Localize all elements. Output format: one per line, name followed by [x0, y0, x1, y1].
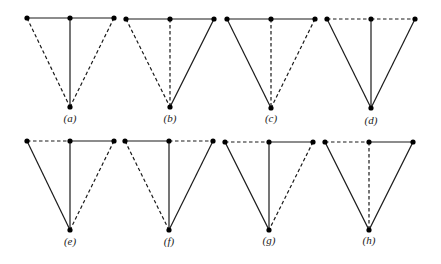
edge-tr-b-dashed [269, 142, 313, 230]
vertex-tm [266, 139, 271, 144]
vertex-tm [268, 16, 273, 21]
edge-tr-b-solid [170, 19, 214, 107]
edge-tr-b-dashed [70, 141, 114, 230]
panel-label: (c) [265, 112, 278, 125]
panel-label: (b) [164, 112, 177, 125]
vertex-tr [111, 138, 116, 143]
vertex-tl [122, 138, 127, 143]
edge-tl-b-solid [325, 142, 369, 230]
vertex-tm [166, 138, 171, 143]
panel-label: (g) [263, 234, 276, 247]
vertex-tm [167, 16, 172, 21]
graph-panel: (c) [224, 16, 317, 125]
vertex-tl [224, 16, 229, 21]
edge-tl-b-dashed [27, 18, 70, 107]
panel-label: (a) [64, 112, 77, 125]
graph-figure: (a)(b)(c)(d)(e)(f)(g)(h) [0, 0, 441, 264]
edge-tr-b-solid [369, 142, 413, 230]
panel-label: (e) [64, 235, 77, 248]
edge-tl-b-dashed [125, 141, 169, 230]
vertex-b [268, 105, 273, 110]
edge-tr-b-dashed [70, 18, 114, 107]
graph-panel: (h) [322, 139, 415, 247]
vertex-b [366, 227, 371, 232]
vertex-tm [67, 138, 72, 143]
vertex-tm [366, 139, 371, 144]
vertex-tm [368, 16, 373, 21]
edge-tl-b-solid [225, 142, 269, 230]
vertex-tr [412, 16, 417, 21]
vertex-tr [210, 138, 215, 143]
edge-tl-b-solid [327, 19, 371, 108]
panel-label: (f) [164, 235, 175, 248]
vertex-b [266, 227, 271, 232]
graph-panel: (g) [222, 139, 315, 247]
vertex-b [167, 104, 172, 109]
graph-panel: (d) [324, 16, 417, 127]
vertex-tl [24, 138, 29, 143]
vertex-tl [24, 15, 29, 20]
panels-container: (a)(b)(c)(d)(e)(f)(g)(h) [24, 15, 417, 248]
edge-tl-b-dashed [126, 19, 170, 107]
graph-panel: (b) [123, 16, 216, 125]
panel-label: (d) [365, 114, 378, 127]
vertex-b [368, 105, 373, 110]
edge-tl-b-solid [227, 19, 271, 108]
vertex-tr [312, 16, 317, 21]
edge-tr-b-solid [169, 141, 213, 230]
edge-tr-b-solid [371, 19, 415, 108]
graph-panel: (a) [24, 15, 116, 125]
vertex-tr [211, 16, 216, 21]
edge-tl-b-solid [27, 141, 70, 230]
vertex-tm [67, 15, 72, 20]
vertex-b [166, 227, 171, 232]
graph-panel: (f) [122, 138, 215, 248]
panel-label: (h) [363, 234, 376, 247]
edge-tr-b-dashed [271, 19, 315, 108]
vertex-tr [111, 15, 116, 20]
graph-panel: (e) [24, 138, 116, 248]
vertex-tl [324, 16, 329, 21]
vertex-tl [322, 139, 327, 144]
vertex-tr [410, 139, 415, 144]
vertex-b [67, 227, 72, 232]
vertex-b [67, 104, 72, 109]
vertex-tr [310, 139, 315, 144]
vertex-tl [222, 139, 227, 144]
vertex-tl [123, 16, 128, 21]
